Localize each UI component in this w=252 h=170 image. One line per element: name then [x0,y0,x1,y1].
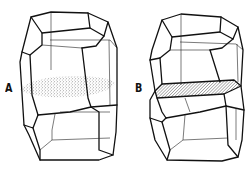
polyhedron-b [150,14,244,161]
diagram-canvas [0,0,252,170]
stippled-section [20,76,115,97]
panel-label-b: B [135,82,142,94]
polyhedron-a [20,12,117,160]
panel-label-a: A [5,82,12,94]
